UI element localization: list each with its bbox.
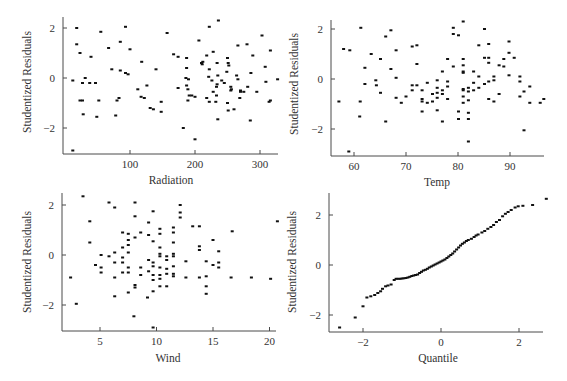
data-point [177, 87, 180, 89]
data-point [415, 84, 418, 86]
data-point [172, 265, 175, 267]
data-point [342, 48, 345, 50]
data-point [395, 97, 398, 99]
data-point [517, 205, 520, 207]
data-point [467, 239, 470, 241]
data-point [230, 277, 233, 279]
data-point [227, 110, 230, 112]
data-point [359, 27, 362, 29]
data-point [147, 234, 150, 236]
data-point [467, 91, 470, 93]
data-point [205, 275, 208, 277]
data-point [441, 121, 444, 123]
data-point [347, 151, 350, 153]
data-point [436, 97, 439, 99]
data-point [134, 215, 137, 217]
data-point [269, 100, 272, 102]
data-point [69, 277, 72, 279]
data-point [172, 242, 175, 244]
data-point [338, 327, 341, 329]
data-point [457, 34, 460, 36]
x-tick-label: 15 [208, 335, 220, 347]
data-point [483, 57, 486, 59]
data-point [207, 76, 210, 78]
data-point [136, 88, 139, 90]
data-point [358, 116, 361, 118]
data-point [186, 100, 189, 102]
data-point [100, 267, 103, 269]
data-point [215, 95, 218, 97]
data-point [446, 81, 449, 83]
data-point [492, 224, 495, 226]
data-point [158, 255, 161, 257]
data-point [152, 262, 155, 264]
y-axis-title: Studentized Residuals [21, 211, 33, 313]
data-point [121, 257, 124, 259]
data-point [108, 202, 111, 204]
data-point [188, 95, 191, 97]
data-point [477, 76, 480, 78]
data-point [354, 317, 357, 319]
data-point [201, 61, 204, 63]
data-point [108, 255, 111, 257]
data-point [436, 92, 439, 94]
data-point [215, 86, 218, 88]
data-point [139, 267, 142, 269]
data-point [205, 55, 208, 57]
data-point [250, 277, 253, 279]
data-point [431, 101, 434, 103]
data-point [508, 74, 511, 76]
data-point [127, 244, 130, 246]
data-point [134, 202, 137, 204]
y-axis-title: Studentized Residuals [286, 211, 298, 313]
data-point [374, 79, 377, 81]
data-point [152, 210, 155, 212]
y-tick-label: 2 [50, 22, 56, 34]
x-tick-label: 90 [505, 160, 517, 172]
data-point [411, 84, 414, 86]
data-point [147, 270, 150, 272]
data-point [523, 129, 526, 131]
data-point [184, 277, 187, 279]
data-point [229, 86, 232, 88]
data-point [225, 71, 228, 73]
x-tick-label: 0 [438, 336, 444, 348]
data-point [518, 96, 521, 98]
data-point [113, 295, 116, 297]
data-point [119, 70, 122, 72]
data-point [205, 285, 208, 287]
data-point [94, 82, 97, 84]
data-point [487, 43, 490, 45]
data-point [172, 273, 175, 275]
data-point [348, 49, 351, 51]
data-point [212, 51, 215, 53]
data-point [172, 255, 175, 257]
data-point [113, 207, 116, 209]
data-point [184, 77, 187, 79]
data-point [363, 67, 366, 69]
data-point [276, 220, 279, 222]
data-point [242, 91, 245, 93]
data-point [140, 61, 143, 63]
data-point [510, 209, 513, 211]
y-axis-title: Studentized Residuals [288, 33, 300, 135]
data-point [158, 278, 161, 280]
data-point [384, 36, 387, 38]
data-point [81, 82, 84, 84]
data-point [90, 56, 93, 58]
y-tick-label: 2 [49, 199, 55, 211]
data-point [400, 102, 403, 104]
data-point [523, 91, 526, 93]
data-point [472, 71, 475, 73]
data-point [160, 101, 163, 103]
data-point [363, 83, 366, 85]
data-point [127, 73, 130, 75]
data-point [411, 89, 414, 91]
x-tick-label: 200 [187, 158, 204, 170]
data-point [152, 327, 155, 329]
data-point [179, 204, 182, 206]
data-point [121, 272, 124, 274]
data-point [229, 90, 232, 92]
y-tick-label: −2 [42, 299, 54, 311]
data-point [172, 227, 175, 229]
